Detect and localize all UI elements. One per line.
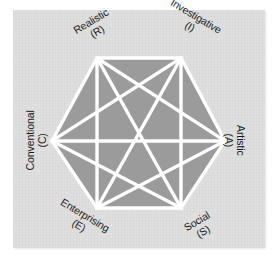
vertex-label-conventional-name: Conventional bbox=[24, 92, 36, 188]
vertex-label-artistic: Artistic (A) bbox=[223, 104, 248, 176]
riasec-hexagon-figure: Realistic (R) Investigative (I) Artistic… bbox=[0, 0, 278, 261]
vertex-label-artistic-code: (A) bbox=[223, 104, 235, 176]
vertex-label-conventional-code: (C) bbox=[36, 92, 48, 188]
vertex-label-artistic-name: Artistic bbox=[235, 104, 247, 176]
vertex-label-conventional: Conventional (C) bbox=[24, 92, 49, 188]
